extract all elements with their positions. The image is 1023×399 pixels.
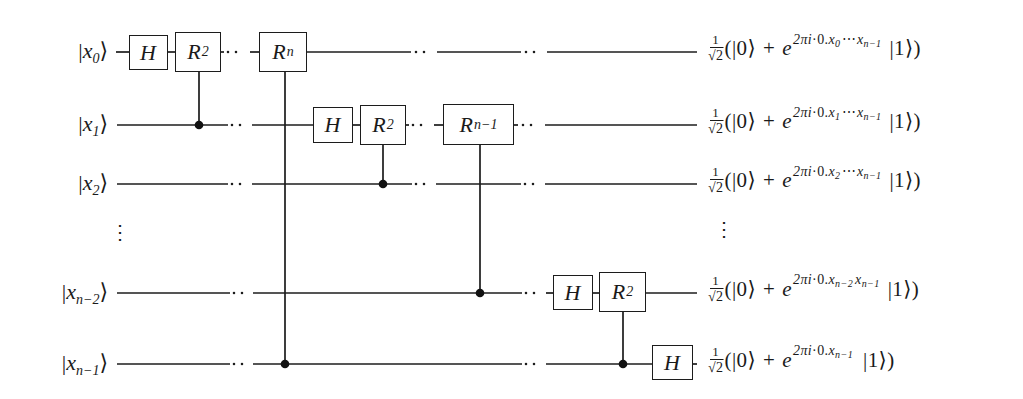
exp-base: e <box>782 109 792 134</box>
ket-angle: ⟩ <box>99 350 108 375</box>
hadamard-gate: H <box>652 345 693 380</box>
exp-sep: ⋯ <box>842 32 856 47</box>
control-rn-1-x1 <box>476 145 485 297</box>
fraction-denominator: √2 <box>708 121 724 136</box>
exp-coeff: 2πi <box>793 272 812 287</box>
control-dot <box>476 289 485 298</box>
fraction-denominator: √2 <box>708 180 724 195</box>
radicand: 2 <box>716 121 723 136</box>
output-vdots: ⋮ <box>714 219 728 239</box>
gate-label: H <box>664 350 680 376</box>
control-r2-x0 <box>195 72 204 129</box>
gate-label: H <box>565 280 581 306</box>
radicand: 2 <box>716 48 723 63</box>
gate-label: H <box>140 40 156 66</box>
exp-sub: 2 <box>835 170 840 181</box>
exp-var: x <box>857 164 864 179</box>
qubit-index: n−1 <box>76 363 99 378</box>
sqrt-symbol: √ <box>708 360 716 375</box>
input-label-xn-1: |xn−1⟩ <box>0 348 108 378</box>
exp-sub: 0 <box>835 38 840 49</box>
exp-coeff: 2πi <box>793 32 812 47</box>
control-r2-xn-2 <box>619 312 628 368</box>
plus-operator: + <box>763 277 775 302</box>
exp-coeff: 2πi <box>793 164 812 179</box>
exp-dot: ·0. <box>812 105 828 120</box>
exp-var: x <box>857 105 864 120</box>
output-state-0: 1√2 (|0⟩+e2πi·0.x0⋯xn−1|1⟩) <box>708 30 921 66</box>
gate-label: R <box>272 39 285 65</box>
hadamard-gate: H <box>129 35 168 70</box>
exponent: 2πi·0.x2⋯xn−1 <box>793 163 882 180</box>
input-label-x0: |x0⟩ <box>0 36 108 66</box>
sqrt-symbol: √ <box>708 289 716 304</box>
fraction-denominator: √2 <box>708 289 724 304</box>
fraction-numerator: 1 <box>710 33 721 48</box>
sqrt-symbol: √ <box>708 121 716 136</box>
exp-base: e <box>782 168 792 193</box>
gate-label: R <box>187 39 200 65</box>
ket-angle: ⟩ <box>99 170 108 195</box>
normalization-fraction: 1√2 <box>708 33 724 63</box>
exp-var: x <box>857 32 864 47</box>
radicand: 2 <box>716 180 723 195</box>
ket-one: |1⟩) <box>888 277 920 302</box>
qubit-var: x <box>66 350 76 375</box>
input-label-x1: |x1⟩ <box>0 109 108 139</box>
fraction-denominator: √2 <box>708 48 724 63</box>
plus-operator: + <box>763 168 775 193</box>
exponent: 2πi·0.xn−2xn−1 <box>793 272 880 288</box>
control-dot <box>195 121 204 130</box>
hadamard-gate: H <box>313 107 353 143</box>
gate-label: R <box>372 112 385 138</box>
control-dot <box>379 180 388 189</box>
rotation-gate-r2: R2 <box>175 32 221 72</box>
ket-one: |1⟩) <box>889 168 921 193</box>
ket-one: |1⟩) <box>889 109 921 134</box>
qubit-var: x <box>66 279 76 304</box>
qubit-var: x <box>83 111 93 136</box>
control-rn-x0 <box>281 72 290 368</box>
exp-dot: ·0. <box>812 164 828 179</box>
ket-zero: (|0⟩ <box>725 348 757 373</box>
exp-sub: n−2 <box>835 278 853 289</box>
normalization-fraction: 1√2 <box>708 106 724 136</box>
plus-operator: + <box>763 348 775 373</box>
gate-label: R <box>460 112 473 138</box>
ket-angle: ⟩ <box>99 279 108 304</box>
rotation-gate-r2: R2 <box>599 272 646 312</box>
ket-one: |1⟩) <box>889 36 921 61</box>
exp-sub: n−1 <box>864 38 882 49</box>
control-r2-x1 <box>379 145 388 188</box>
normalization-fraction: 1√2 <box>708 274 724 304</box>
exp-sub: n−1 <box>864 111 882 122</box>
exp-sub: n−1 <box>862 278 880 289</box>
fraction-numerator: 1 <box>710 345 721 360</box>
fraction-numerator: 1 <box>710 106 721 121</box>
control-dot <box>619 360 628 369</box>
ket-one: |1⟩) <box>863 348 895 373</box>
control-dot <box>281 360 290 369</box>
rotation-gate-rn-1: Rn−1 <box>443 104 514 145</box>
hadamard-gate: H <box>553 275 593 310</box>
input-label-x2: |x2⟩ <box>0 168 108 198</box>
exp-dot: ·0. <box>812 343 828 358</box>
exp-sub: n−1 <box>864 170 882 181</box>
qubit-index: n−2 <box>76 292 99 307</box>
rotation-gate-r2: R2 <box>360 105 406 145</box>
exp-coeff: 2πi <box>793 343 812 358</box>
ket-zero: (|0⟩ <box>725 36 757 61</box>
exp-sub: 1 <box>835 111 840 122</box>
exp-dot: ·0. <box>812 272 828 287</box>
input-label-xn-2: |xn−2⟩ <box>0 277 108 307</box>
exp-base: e <box>782 348 792 373</box>
exp-base: e <box>782 36 792 61</box>
exp-sep: ⋯ <box>842 164 856 179</box>
output-state-2: 1√2 (|0⟩+e2πi·0.x2⋯xn−1|1⟩) <box>708 162 921 198</box>
fraction-numerator: 1 <box>710 165 721 180</box>
exponent: 2πi·0.xn−1 <box>793 343 855 359</box>
sqrt-symbol: √ <box>708 180 716 195</box>
ket-zero: (|0⟩ <box>725 277 757 302</box>
rotation-gate-rn: Rn <box>259 32 307 72</box>
exp-sep: ⋯ <box>842 105 856 120</box>
